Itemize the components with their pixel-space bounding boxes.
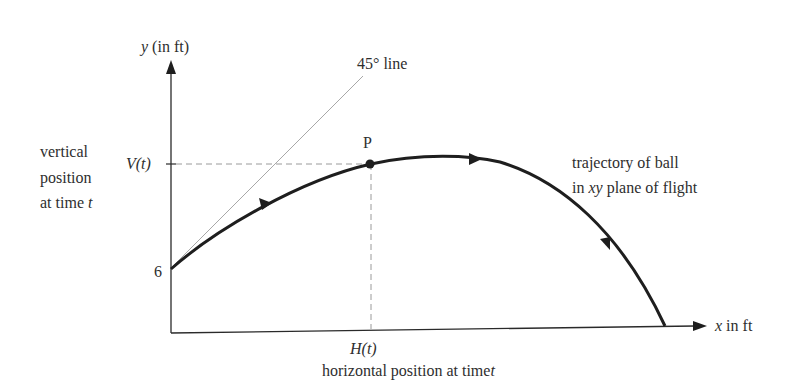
line-45-label: 45° line — [357, 53, 407, 75]
vertical-desc-line2: position — [40, 167, 92, 189]
y-intercept-label: 6 — [154, 261, 162, 283]
line-45-degree — [171, 76, 363, 268]
point-p-marker — [366, 160, 375, 169]
direction-arrow-icon — [600, 237, 610, 250]
vertical-desc-line1: vertical — [40, 141, 88, 163]
vertical-desc-line3: at time t — [40, 192, 92, 214]
trajectory-label-line2: in xy plane of flight — [572, 177, 697, 199]
v-tick-label: V(t) — [126, 153, 151, 175]
point-p-label: P — [363, 132, 372, 154]
x-axis-label: x in ft — [715, 315, 752, 337]
y-axis-arrow-icon — [166, 60, 176, 74]
horizontal-desc: horizontal position at timet — [322, 360, 495, 382]
x-axis — [171, 326, 695, 333]
direction-arrow-icon — [469, 153, 482, 165]
trajectory-label-line1: trajectory of ball — [572, 152, 679, 174]
x-axis-arrow-icon — [693, 321, 707, 331]
h-tick-label: H(t) — [350, 338, 377, 360]
y-axis-label: y (in ft) — [141, 36, 189, 58]
